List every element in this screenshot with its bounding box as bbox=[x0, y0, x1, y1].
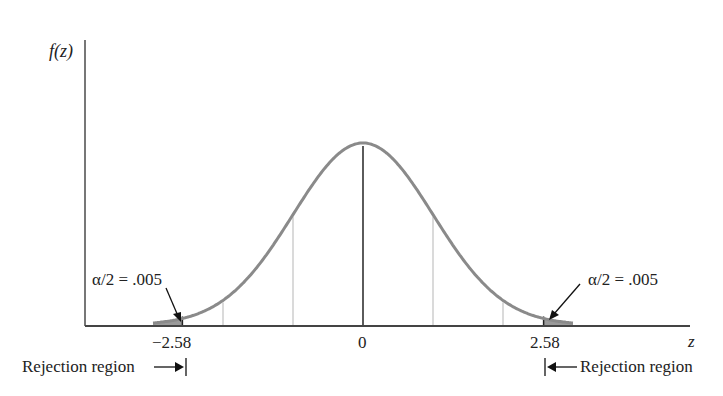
y-axis-label: f(z) bbox=[49, 41, 73, 62]
tick-neg-2-58: −2.58 bbox=[152, 333, 191, 353]
tick-zero: 0 bbox=[358, 333, 367, 353]
rejection-region-right-label: Rejection region bbox=[580, 357, 693, 377]
alpha-left-arrow bbox=[166, 288, 181, 322]
x-axis-label: z bbox=[688, 332, 695, 352]
rejection-region-left-label: Rejection region bbox=[22, 357, 135, 377]
alpha-left-label: α/2 = .005 bbox=[92, 270, 162, 290]
alpha-right-label: α/2 = .005 bbox=[588, 270, 658, 290]
alpha-right-arrow bbox=[549, 284, 580, 320]
reject-right-arrow bbox=[545, 358, 577, 376]
reject-left-arrow bbox=[154, 358, 186, 376]
tick-pos-2-58: 2.58 bbox=[530, 333, 560, 353]
